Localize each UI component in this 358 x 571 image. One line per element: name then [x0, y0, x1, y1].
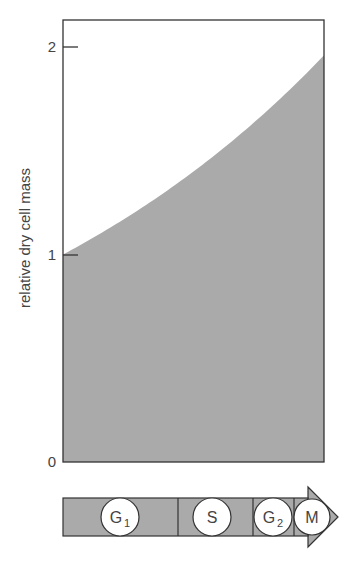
phase-subscript: 2 [277, 517, 283, 529]
mass-growth-area [63, 55, 324, 462]
phase-label: G [110, 509, 122, 526]
phase-subscript: 1 [124, 517, 130, 529]
phase-m: M [294, 499, 330, 535]
tick-label-2: 2 [48, 38, 56, 55]
phase-label: G [263, 509, 275, 526]
phase-g2: G 2 [254, 498, 292, 536]
phase-label: S [207, 509, 218, 526]
phase-label: M [305, 509, 318, 526]
cell-cycle-bar: G 1 S G 2 M [63, 487, 338, 547]
y-axis-label: relative dry cell mass [16, 168, 33, 308]
phase-g1: G 1 [101, 498, 139, 536]
tick-label-0: 0 [48, 453, 56, 470]
phase-s: S [193, 498, 231, 536]
tick-label-1: 1 [48, 246, 56, 263]
cell-mass-diagram: 2 1 0 relative dry cell mass G 1 S G 2 [0, 0, 358, 571]
